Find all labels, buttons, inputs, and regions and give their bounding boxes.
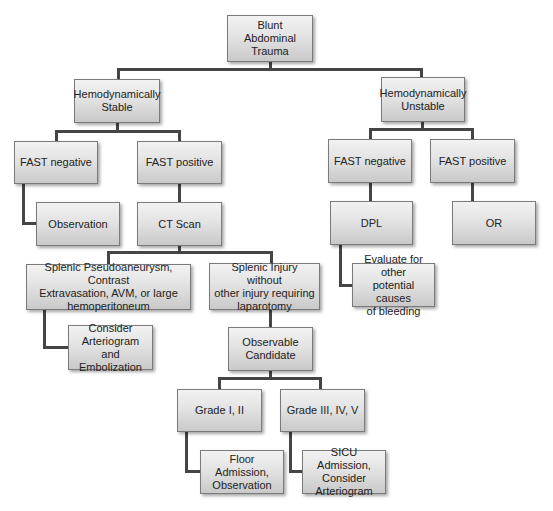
node-dpl: DPL xyxy=(330,201,413,245)
node-stable-fast-negative: FAST negative xyxy=(14,141,98,184)
node-or: OR xyxy=(452,201,536,245)
connector-line xyxy=(185,432,188,473)
connector-line xyxy=(218,377,221,389)
node-grade-3-5: Grade III, IV, V xyxy=(280,389,365,432)
connector-line xyxy=(369,128,474,131)
connector-line xyxy=(369,128,372,139)
node-observable-candidate: Observable Candidate xyxy=(228,327,313,371)
node-splenic-pseudoaneurysm: Splenic Pseudoaneurysm, Contrast Extrava… xyxy=(26,264,191,310)
node-ct-scan: CT Scan xyxy=(137,202,222,246)
node-grade-1-2: Grade I, II xyxy=(177,389,262,432)
connector-line xyxy=(55,130,58,141)
connector-line xyxy=(269,310,272,327)
connector-line xyxy=(55,130,181,133)
node-stable-fast-positive: FAST positive xyxy=(137,141,222,184)
connector-line xyxy=(117,68,120,79)
connector-line xyxy=(185,470,200,473)
connector-line xyxy=(339,245,342,287)
node-blunt-abdominal-trauma: Blunt Abdominal Trauma xyxy=(227,15,313,62)
connector-line xyxy=(218,377,322,380)
flowchart-canvas: Blunt Abdominal Trauma Hemodynamically S… xyxy=(0,0,553,511)
connector-line xyxy=(339,284,352,287)
node-floor-admission: Floor Admission, Observation xyxy=(200,450,284,494)
connector-line xyxy=(319,377,322,389)
connector-line xyxy=(289,432,292,473)
node-consider-arteriogram-embolization: Consider Arteriogram and Embolization xyxy=(68,325,153,370)
connector-line xyxy=(117,68,423,71)
node-unstable-fast-negative: FAST negative xyxy=(328,139,412,183)
node-unstable-fast-positive: FAST positive xyxy=(430,139,515,183)
connector-line xyxy=(43,310,46,349)
connector-line xyxy=(471,128,474,139)
connector-line xyxy=(289,470,302,473)
node-evaluate-other-causes: Evaluate for other potential causes of b… xyxy=(352,263,435,307)
node-splenic-injury: Splenic Injury without other injury requ… xyxy=(209,263,320,310)
node-observation: Observation xyxy=(36,202,120,246)
connector-line xyxy=(178,130,181,141)
connector-line xyxy=(22,184,25,225)
node-hemodynamically-stable: Hemodynamically Stable xyxy=(74,79,160,123)
connector-line xyxy=(420,68,423,77)
node-sicu-admission: SICU Admission, Consider Arteriogram xyxy=(302,450,386,494)
connector-line xyxy=(22,222,36,225)
connector-line xyxy=(369,183,372,201)
connector-line xyxy=(43,346,68,349)
connector-line xyxy=(107,251,273,254)
connector-line xyxy=(178,184,181,202)
node-hemodynamically-unstable: Hemodynamically Unstable xyxy=(381,77,465,122)
